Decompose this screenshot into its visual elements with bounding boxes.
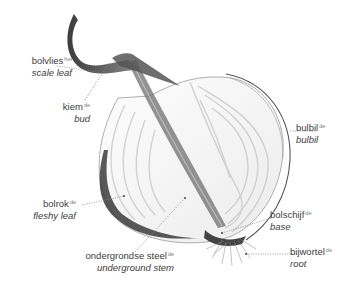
label-article: de	[168, 251, 174, 257]
label-article: de	[84, 102, 90, 108]
label-en: underground stem	[44, 262, 174, 274]
label-nl: ondergrondse steel	[86, 250, 167, 261]
label-en: bulbil	[296, 134, 325, 146]
label-bud: kiemde bud	[30, 101, 90, 125]
label-root: bijwortelde root	[290, 246, 332, 270]
label-article: de	[326, 247, 332, 253]
label-en: root	[290, 258, 332, 270]
label-nl: bulbil	[296, 122, 318, 133]
label-underground-stem: ondergrondse steelde underground stem	[44, 250, 174, 274]
label-en: fleshy leaf	[4, 210, 76, 222]
label-article: de	[305, 210, 311, 216]
onion-illustration	[0, 0, 346, 282]
label-base: bolschijfde base	[270, 209, 311, 233]
label-en: scale leaf	[4, 67, 72, 79]
label-nl: bolvlies	[32, 55, 64, 66]
label-nl: bolschijf	[270, 209, 304, 220]
label-article: het	[64, 56, 72, 62]
label-article: de	[319, 123, 325, 129]
label-fleshy-leaf: bolrokde fleshy leaf	[4, 198, 76, 222]
label-bulbil: bulbilde bulbil	[296, 122, 325, 146]
label-scale-leaf: bolvlieshet scale leaf	[4, 55, 72, 79]
label-en: bud	[30, 113, 90, 125]
label-nl: kiem	[63, 101, 83, 112]
label-nl: bolrok	[43, 198, 69, 209]
label-nl: bijwortel	[290, 246, 325, 257]
label-en: base	[270, 221, 311, 233]
label-article: de	[70, 199, 76, 205]
